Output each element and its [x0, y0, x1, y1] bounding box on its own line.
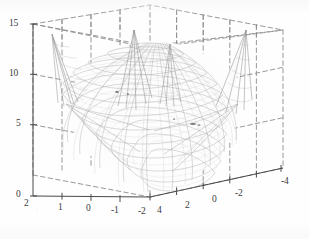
x-tick-1: 1 [58, 202, 63, 212]
z-tick-15: 15 [9, 18, 18, 28]
z-axis [30, 24, 37, 196]
y-tick-4: 4 [157, 205, 162, 215]
plot-canvas [0, 0, 309, 239]
z-tick-10: 10 [9, 68, 18, 78]
z-tick-0: 0 [16, 189, 21, 199]
y-tick-neg4: -4 [281, 176, 289, 186]
y-tick-0: 0 [212, 194, 217, 204]
y-tick-neg2: -2 [235, 188, 243, 198]
surface-plot-figure: 15 10 5 0 2 1 0 -1 -2 4 2 0 -2 -4 [0, 0, 309, 239]
x-axis [33, 193, 150, 202]
x-tick-0: 0 [86, 203, 91, 213]
z-tick-5: 5 [16, 118, 21, 128]
x-tick-neg2: -2 [138, 206, 146, 216]
mesh-surface [52, 30, 252, 192]
x-tick-neg1: -1 [111, 205, 119, 215]
y-tick-2: 2 [185, 200, 190, 210]
x-tick-2: 2 [24, 198, 29, 208]
